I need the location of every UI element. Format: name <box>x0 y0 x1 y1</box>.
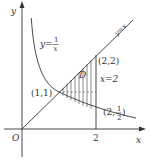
x-axis-label: x <box>136 135 141 145</box>
point-label-2-2: (2,2) <box>98 56 119 66</box>
origin-label: O <box>12 133 20 143</box>
svg-text:2: 2 <box>117 114 121 122</box>
region-label: D <box>78 70 86 80</box>
y-axis <box>20 1 25 157</box>
x-tick-label-2: 2 <box>93 133 99 143</box>
y-axis-label: y <box>10 6 17 16</box>
svg-text:x: x <box>54 45 58 53</box>
line-label-y-equals-x: y=x <box>112 22 128 38</box>
line-label-x-equals-2: x=2 <box>100 74 119 84</box>
function-diagram: y x O 2 y= 1 x y=x (2,2) x=2 (1,1) D (2,… <box>0 0 150 166</box>
svg-text:(2,: (2, <box>103 107 115 117</box>
point-label-1-1: (1,1) <box>31 88 52 98</box>
x-axis-arrow-icon <box>139 127 146 132</box>
svg-text:y=: y= <box>39 39 53 49</box>
svg-text:1: 1 <box>117 105 121 113</box>
svg-text:): ) <box>122 107 126 117</box>
x-axis <box>4 127 146 132</box>
y-axis-arrow-icon <box>20 1 25 8</box>
hyperbola-label: y= 1 x <box>39 36 59 53</box>
svg-text:1: 1 <box>54 36 58 44</box>
point-label-2-half: (2, 1 2 ) <box>103 105 126 122</box>
